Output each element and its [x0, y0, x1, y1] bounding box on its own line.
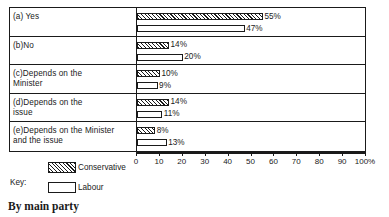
- category-label: (e)Depends on the Minister and the issue: [10, 122, 137, 151]
- bar-value-label: 10%: [161, 70, 177, 78]
- x-axis: 0102030405060708090100%: [136, 152, 366, 154]
- bar-labour: [137, 54, 183, 61]
- x-axis-tick: [136, 152, 137, 156]
- x-axis-tick-label: 30: [200, 157, 209, 166]
- bar-labour: [137, 139, 167, 146]
- x-axis-tick: [205, 152, 206, 156]
- row-bars: 10%9%: [137, 65, 365, 93]
- category-label: (d)Depends on the issue: [10, 94, 137, 122]
- bar-chart-figure: (a) Yes55%47%(b)No14%20%(c)Depends on th…: [0, 0, 389, 217]
- bar-value-label: 14%: [171, 41, 187, 49]
- bar-group-conservative: 10%: [137, 70, 178, 77]
- x-axis-tick-label: 70: [292, 157, 301, 166]
- chart-legend: Key: Conservative Labour: [10, 162, 170, 202]
- x-axis-tick: [365, 152, 366, 156]
- x-axis-tick: [182, 152, 183, 156]
- bar-group-labour: 13%: [137, 139, 185, 146]
- bar-value-label: 13%: [168, 139, 184, 147]
- chart-row: (d)Depends on the issue14%11%: [10, 94, 365, 123]
- x-axis-tick-label: 60: [269, 157, 278, 166]
- bar-value-label: 20%: [184, 53, 200, 61]
- bar-value-label: 55%: [264, 13, 280, 21]
- legend-swatch-conservative-icon: [48, 162, 76, 173]
- bar-value-label: 11%: [164, 110, 180, 118]
- legend-entry-conservative: Conservative: [48, 162, 126, 173]
- row-bars: 14%11%: [137, 94, 365, 122]
- bar-group-labour: 11%: [137, 111, 179, 118]
- category-label: (b)No: [10, 37, 137, 65]
- x-axis-tick-label: 20: [177, 157, 186, 166]
- legend-swatch-labour-icon: [48, 182, 76, 193]
- x-axis-tick-label: 40: [223, 157, 232, 166]
- x-axis-tick: [273, 152, 274, 156]
- legend-title: Key:: [10, 178, 26, 187]
- chart-plot-area: (a) Yes55%47%(b)No14%20%(c)Depends on th…: [9, 7, 366, 152]
- bar-group-conservative: 14%: [137, 42, 187, 49]
- bar-group-labour: 47%: [137, 25, 263, 32]
- x-axis-tick: [159, 152, 160, 156]
- bar-labour: [137, 25, 245, 32]
- x-axis-tick: [251, 152, 252, 156]
- bar-value-label: 8%: [157, 127, 169, 135]
- bar-group-labour: 20%: [137, 54, 201, 61]
- chart-row: (c)Depends on the Minister10%9%: [10, 65, 365, 94]
- row-bars: 14%20%: [137, 37, 365, 65]
- bar-value-label: 9%: [159, 82, 171, 90]
- figure-caption: By main party: [8, 200, 79, 213]
- x-axis-tick: [342, 152, 343, 156]
- bar-conservative: [137, 127, 155, 134]
- bar-conservative: [137, 99, 169, 106]
- bar-value-label: 47%: [246, 25, 262, 33]
- legend-entry-labour: Labour: [48, 182, 104, 193]
- bar-conservative: [137, 13, 263, 20]
- row-bars: 55%47%: [137, 8, 365, 36]
- x-axis-tick-label: 80: [315, 157, 324, 166]
- bar-group-conservative: 8%: [137, 127, 169, 134]
- bar-value-label: 14%: [171, 98, 187, 106]
- chart-row: (b)No14%20%: [10, 37, 365, 66]
- category-label: (a) Yes: [10, 8, 137, 36]
- bar-conservative: [137, 42, 169, 49]
- category-label: (c)Depends on the Minister: [10, 65, 137, 93]
- bar-labour: [137, 82, 158, 89]
- row-bars: 8%13%: [137, 122, 365, 151]
- x-axis-tick-label: 50: [246, 157, 255, 166]
- x-axis-tick: [228, 152, 229, 156]
- chart-row: (e)Depends on the Minister and the issue…: [10, 122, 365, 151]
- x-axis-tick-label: 90: [338, 157, 347, 166]
- legend-label-conservative: Conservative: [78, 163, 126, 172]
- bar-group-conservative: 14%: [137, 99, 187, 106]
- bar-group-conservative: 55%: [137, 13, 281, 20]
- x-axis-tick-label: 100%: [355, 157, 375, 166]
- x-axis-tick: [319, 152, 320, 156]
- legend-label-labour: Labour: [78, 183, 104, 192]
- chart-row: (a) Yes55%47%: [10, 8, 365, 37]
- bar-group-labour: 9%: [137, 82, 171, 89]
- bar-conservative: [137, 70, 160, 77]
- x-axis-tick: [296, 152, 297, 156]
- bar-labour: [137, 111, 162, 118]
